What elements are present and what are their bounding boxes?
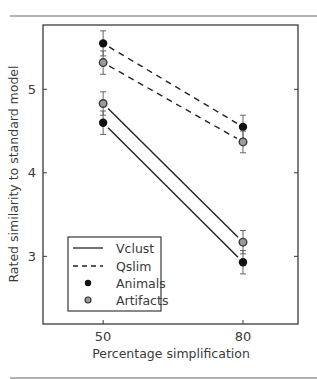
animals-marker-icon <box>239 258 247 266</box>
x-axis-label: Percentage simplification <box>92 346 250 361</box>
x-tick-label-80: 80 <box>235 329 252 344</box>
artifacts-marker-icon <box>99 59 107 67</box>
animals-marker-icon <box>99 119 107 127</box>
y-tick-label-5: 5 <box>28 82 36 97</box>
animals-marker-icon <box>99 39 107 47</box>
animals-marker-icon <box>239 123 247 131</box>
y-axis-label: Rated similarity to standard model <box>6 65 21 282</box>
legend-artifacts-marker-icon <box>85 297 91 303</box>
legend-animals-label: Animals <box>116 276 166 291</box>
y-tick-label-4: 4 <box>28 165 36 180</box>
artifacts-marker-icon <box>239 238 247 246</box>
series-qslim-artifacts <box>99 51 246 153</box>
artifacts-marker-icon <box>239 138 247 146</box>
series-qslim-animals <box>99 31 247 139</box>
legend: Vclust Qslim Animals Artifacts <box>68 237 168 311</box>
y-tick-label-3: 3 <box>28 249 36 264</box>
artifacts-marker-icon <box>99 100 107 108</box>
chart-figure: 5 4 3 50 80 Percentage simplification Ra… <box>0 0 317 379</box>
legend-qslim-label: Qslim <box>116 259 151 274</box>
legend-animals-marker-icon <box>85 280 91 286</box>
legend-artifacts-label: Artifacts <box>116 293 168 308</box>
series-line <box>109 47 237 123</box>
x-tick-label-50: 50 <box>95 329 112 344</box>
legend-vclust-label: Vclust <box>116 241 154 256</box>
